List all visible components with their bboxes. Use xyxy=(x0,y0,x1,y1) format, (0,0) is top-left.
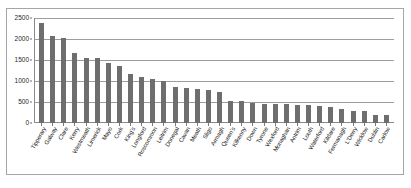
bar-slot xyxy=(314,18,325,123)
bar-slot xyxy=(158,18,169,123)
y-axis-tick-mark xyxy=(30,81,32,82)
x-axis-label-slot: Queen's xyxy=(225,126,236,174)
bar-slot xyxy=(325,18,336,123)
bar-slot xyxy=(192,18,203,123)
bar xyxy=(328,107,333,123)
bar xyxy=(284,104,289,123)
y-axis: 25002000150010005000 xyxy=(7,18,32,123)
bar xyxy=(273,104,278,123)
x-axis-label-slot: Antrim xyxy=(292,126,303,174)
bar-slot xyxy=(381,18,392,123)
x-axis-label-slot: Donegal xyxy=(170,126,181,174)
x-axis-label-slot: Limerick xyxy=(92,126,103,174)
x-axis-tick-label: Cavan xyxy=(178,126,192,144)
bar xyxy=(95,58,100,123)
bar-slot xyxy=(81,18,92,123)
bar xyxy=(150,79,155,123)
y-axis-tick-label: 2000 xyxy=(15,36,29,43)
x-axis-label-slot: Tyrone xyxy=(259,126,270,174)
bar-slot xyxy=(236,18,247,123)
bar-slot xyxy=(136,18,147,123)
x-axis-label-slot: Dublin xyxy=(370,126,381,174)
bar-slot xyxy=(92,18,103,123)
bar-slot xyxy=(125,18,136,123)
bar xyxy=(184,88,189,123)
bar-slot xyxy=(181,18,192,123)
x-axis-label-slot: Cavan xyxy=(181,126,192,174)
bar-slot xyxy=(348,18,359,123)
bar xyxy=(317,106,322,123)
y-axis-tick-mark xyxy=(30,123,32,124)
x-axis-tick-label: Antrim xyxy=(289,126,303,144)
x-axis-label-slot: Sligo xyxy=(203,126,214,174)
bar-slot xyxy=(370,18,381,123)
bar-slot xyxy=(259,18,270,123)
x-axis-label-slot: Clare xyxy=(58,126,69,174)
x-axis-label-slot: Roscommon xyxy=(147,126,158,174)
x-axis-label-slot: L'Derry xyxy=(348,126,359,174)
top-cropped-text-strip xyxy=(0,0,411,7)
figure-caption xyxy=(8,177,408,188)
y-axis-tick-label: 0 xyxy=(25,120,29,127)
bar xyxy=(106,63,111,123)
x-axis-label-slot: Monaghan xyxy=(281,126,292,174)
bar xyxy=(228,101,233,123)
bar-slot xyxy=(36,18,47,123)
bar xyxy=(239,101,244,123)
x-axis-label-slot: Kilkenny xyxy=(236,126,247,174)
chart-frame: 25002000150010005000 TipperaryGalwayClar… xyxy=(6,8,404,175)
bar-slot xyxy=(170,18,181,123)
bar xyxy=(250,103,255,123)
bar xyxy=(161,81,166,123)
x-axis-label-slot: Down xyxy=(247,126,258,174)
bar xyxy=(262,104,267,123)
bar-series xyxy=(34,18,394,123)
bar-slot xyxy=(303,18,314,123)
x-axis-label-slot: Galway xyxy=(47,126,58,174)
bar-slot xyxy=(103,18,114,123)
x-axis-label-slot: Wicklow xyxy=(359,126,370,174)
bar-slot xyxy=(292,18,303,123)
bar xyxy=(339,109,344,123)
bar-slot xyxy=(270,18,281,123)
y-axis-tick-label: 1500 xyxy=(15,57,29,64)
bar xyxy=(117,66,122,123)
y-axis-tick-mark xyxy=(30,39,32,40)
bar xyxy=(206,90,211,123)
x-axis-label-slot: Westmeath xyxy=(81,126,92,174)
x-axis-label-slot: Meath xyxy=(192,126,203,174)
x-axis-tick-label: Mayo xyxy=(101,126,113,141)
bar xyxy=(306,105,311,123)
bar xyxy=(39,23,44,123)
x-axis-tick-label: Tipperary xyxy=(29,126,46,150)
y-axis-tick-mark xyxy=(30,102,32,103)
bar-slot xyxy=(225,18,236,123)
x-axis-label-slot: Mayo xyxy=(103,126,114,174)
x-axis-label-slot: Cork xyxy=(114,126,125,174)
bar xyxy=(295,105,300,123)
bar-slot xyxy=(203,18,214,123)
x-axis-label-slot: Armagh xyxy=(214,126,225,174)
x-axis-label-slot: King's xyxy=(125,126,136,174)
bar-slot xyxy=(247,18,258,123)
bar-slot xyxy=(47,18,58,123)
x-axis-label-slot: Tipperary xyxy=(36,126,47,174)
bar-slot xyxy=(147,18,158,123)
y-axis-tick-label: 500 xyxy=(18,99,29,106)
bar xyxy=(139,77,144,123)
bar xyxy=(351,111,356,123)
x-axis-label-slot: Fermanagh xyxy=(336,126,347,174)
x-axis-label-slot: Carlow xyxy=(381,126,392,174)
bar xyxy=(61,38,66,123)
bar xyxy=(195,89,200,123)
bar xyxy=(72,53,77,123)
bar-slot xyxy=(214,18,225,123)
bar xyxy=(373,115,378,123)
bar-slot xyxy=(281,18,292,123)
x-axis-tick-label: Clare xyxy=(57,126,69,141)
bar xyxy=(128,74,133,123)
x-axis-label-slot: Waterford xyxy=(314,126,325,174)
x-axis-tick-label: Meath xyxy=(189,126,202,143)
y-axis-tick-mark xyxy=(30,18,32,19)
y-axis-tick-label: 1000 xyxy=(15,78,29,85)
